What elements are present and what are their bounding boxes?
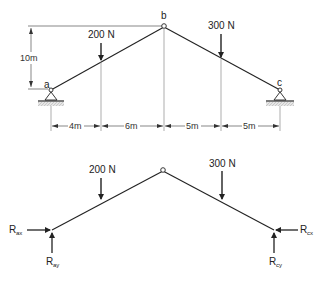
height-dimension-label: 10m — [20, 53, 38, 63]
span-dimension-label: 5m — [186, 121, 199, 131]
node-c-label: c — [277, 77, 282, 88]
fbd-member-ab — [52, 171, 163, 230]
fbd-load-200n: 200 N — [89, 164, 116, 199]
reaction-rax: R ax — [9, 224, 50, 236]
fbd-member-bc — [163, 171, 274, 230]
reaction-rcx: R cx — [276, 224, 313, 236]
fbd-load-300n-label: 300 N — [209, 158, 236, 169]
fbd-load-300n: 300 N — [209, 158, 236, 199]
span-dimension-label: 4m — [69, 121, 82, 131]
load-200n-label: 200 N — [88, 29, 115, 40]
reaction-ray: R ay — [46, 233, 59, 268]
reaction-rcx-subscript: cx — [307, 230, 313, 236]
node-b-label: b — [161, 10, 167, 21]
load-300n-label: 300 N — [208, 20, 235, 31]
fbd-load-200n-label: 200 N — [89, 164, 116, 175]
node-a-label: a — [44, 79, 50, 90]
fbd-hinge-icon — [161, 168, 166, 173]
height-dimension: 10m — [20, 28, 38, 87]
reaction-ray-subscript: ay — [53, 262, 59, 268]
pin-support-c-icon — [266, 88, 294, 106]
three-hinged-frame-figure: 10m b a c 200 N 300 N — [0, 0, 324, 281]
pin-support-a-icon — [38, 88, 64, 106]
span-dimension-label: 6m — [125, 121, 138, 131]
hinge-b-icon — [162, 24, 167, 29]
reaction-rax-subscript: ax — [16, 230, 22, 236]
span-dimension-label: 5m — [243, 121, 256, 131]
load-200n: 200 N — [88, 29, 115, 60]
reaction-rcy: R cy — [269, 233, 282, 268]
reaction-rcy-subscript: cy — [276, 262, 282, 268]
load-300n: 300 N — [208, 20, 235, 57]
structure-diagram: 10m b a c 200 N 300 N — [20, 10, 294, 131]
span-dimensions: 4m 6m 5m 5m — [52, 121, 279, 131]
member-bc — [164, 27, 280, 90]
free-body-diagram: 200 N 300 N R ax R ay R cx R cy — [9, 158, 313, 268]
